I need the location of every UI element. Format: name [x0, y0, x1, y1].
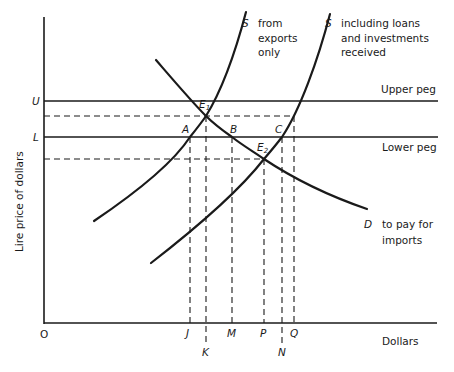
upper-peg-symbol: U [32, 95, 40, 107]
point-b-label: B [230, 123, 237, 135]
demand-caption-1: to pay for [382, 218, 434, 230]
supply-total-caption-3: received [341, 46, 386, 58]
supply-total-curve [151, 14, 330, 263]
tick-q-label: Q [290, 327, 298, 339]
forex-peg-diagram: Lire price of dollars U L Upper peg Lowe… [0, 0, 454, 372]
supply-exports-caption-1: from [258, 17, 282, 29]
peg-lines [44, 101, 438, 137]
supply-total-symbol: S [325, 17, 332, 29]
x-axis-label: Dollars [382, 335, 419, 347]
tick-j-label: J [184, 327, 189, 339]
supply-exports-symbol: S [242, 17, 249, 29]
demand-caption-2: imports [382, 234, 422, 246]
tick-p-label: P [260, 327, 267, 339]
demand-symbol: D [364, 218, 372, 230]
supply-exports-caption-2: exports [258, 32, 297, 44]
upper-peg-label: Upper peg [381, 83, 436, 95]
point-c-label: C [275, 123, 283, 135]
origin-label: O [40, 328, 48, 340]
supply-exports-caption-3: only [258, 46, 280, 58]
lower-peg-label: Lower peg [382, 141, 437, 153]
point-a-label: A [181, 123, 189, 135]
axes [44, 17, 437, 324]
supply-total-caption-2: and investments [341, 32, 429, 44]
lower-peg-symbol: L [33, 131, 39, 143]
point-e1-label: E1 [199, 98, 210, 112]
point-e2-subscript: 2 [264, 147, 269, 155]
tick-k-label: K [202, 346, 210, 358]
supply-total-caption-1: including loans [341, 17, 420, 29]
tick-n-label: N [278, 346, 286, 358]
point-e2-label: E2 [257, 141, 269, 155]
tick-m-label: M [227, 327, 236, 339]
y-axis-label: Lire price of dollars [13, 151, 25, 252]
point-e1-subscript: 1 [206, 104, 210, 112]
